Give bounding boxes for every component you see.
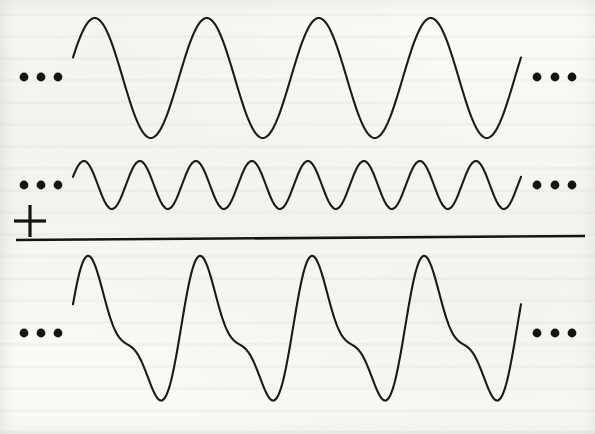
wave-superposition-figure: Superposition of a sine wave and its sec…	[0, 0, 595, 434]
wave-bottom-curve	[73, 256, 521, 401]
ellipsis-dot	[533, 329, 542, 338]
ellipsis-dot	[20, 329, 29, 338]
ellipsis-dot	[37, 329, 46, 338]
ellipsis-dot	[54, 329, 63, 338]
ellipsis-dot	[568, 329, 577, 338]
wave-bottom-trailing-ellipsis	[533, 329, 577, 338]
wave-bottom-layer	[0, 0, 595, 434]
wave-bottom-leading-ellipsis	[20, 329, 63, 338]
ellipsis-dot	[551, 329, 560, 338]
